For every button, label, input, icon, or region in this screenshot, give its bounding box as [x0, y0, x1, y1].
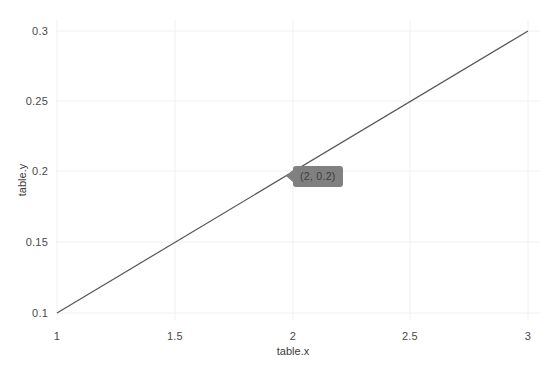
tooltip-arrow — [286, 170, 293, 182]
y-tick-label: 0.3 — [14, 25, 48, 37]
y-axis-title: table.y — [16, 164, 28, 196]
x-tick-label: 3 — [525, 330, 531, 342]
plot-area — [0, 0, 546, 368]
y-tick-label: 0.1 — [14, 307, 48, 319]
x-tick-label: 2 — [290, 330, 296, 342]
data-point-tooltip[interactable]: (2, 0.2) — [293, 166, 343, 187]
y-tick-label: 0.25 — [14, 95, 48, 107]
x-axis-title: table.x — [277, 345, 309, 357]
x-tick-label: 1 — [54, 330, 60, 342]
x-tick-label: 1.5 — [167, 330, 183, 342]
y-tick-label: 0.15 — [14, 236, 48, 248]
line-chart: 0.3 0.25 0.2 0.15 0.1 1 1.5 2 2.5 3 tabl… — [0, 0, 546, 368]
x-tick-label: 2.5 — [402, 330, 418, 342]
